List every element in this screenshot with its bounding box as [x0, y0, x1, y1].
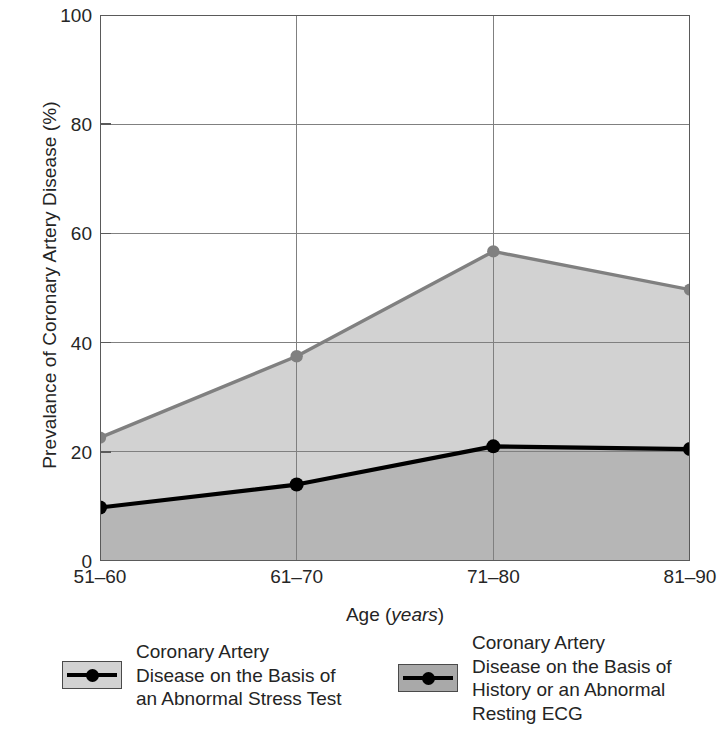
x-axis-title: Age (years) — [100, 604, 690, 626]
x-axis-tick-label: 51–60 — [30, 567, 170, 586]
data-point-marker — [487, 245, 499, 257]
data-point-marker — [486, 439, 500, 453]
x-axis-title-text: Age ( — [346, 604, 391, 625]
x-axis-title-tail: ) — [438, 604, 444, 625]
x-axis-tick-label: 61–70 — [227, 567, 367, 586]
plot-area — [100, 15, 690, 561]
data-point-marker — [290, 478, 304, 492]
legend-label-history-ecg: Coronary Artery Disease on the Basis of … — [472, 631, 672, 725]
legend-entry-history-ecg: Coronary Artery Disease on the Basis of … — [398, 631, 672, 725]
y-axis-tick-label: 20 — [46, 443, 92, 462]
y-axis-tick-label: 80 — [46, 115, 92, 134]
x-axis-tick-label: 71–80 — [423, 567, 563, 586]
y-axis-tick-label: 100 — [46, 6, 92, 25]
x-axis-title-emphasis: years — [391, 604, 437, 625]
x-axis-tick-label: 81–90 — [620, 567, 721, 586]
legend-label-stress-test: Coronary Artery Disease on the Basis of … — [136, 640, 342, 711]
y-axis-tick-label: 60 — [46, 224, 92, 243]
legend-swatch-stress-test — [62, 661, 122, 689]
y-axis-tick-labels: 020406080100 — [40, 0, 92, 600]
y-axis-tick-label: 40 — [46, 334, 92, 353]
legend-marker-icon — [422, 672, 435, 685]
legend-marker-icon — [86, 669, 99, 682]
x-axis-tick-labels: 51–6061–7071–8081–90 — [0, 567, 696, 597]
legend-entry-stress-test: Coronary Artery Disease on the Basis of … — [62, 640, 342, 711]
chart-legend: Coronary Artery Disease on the Basis of … — [0, 636, 696, 733]
legend-swatch-history-ecg — [398, 664, 458, 692]
chart-canvas — [100, 15, 690, 561]
data-point-marker — [290, 350, 302, 362]
